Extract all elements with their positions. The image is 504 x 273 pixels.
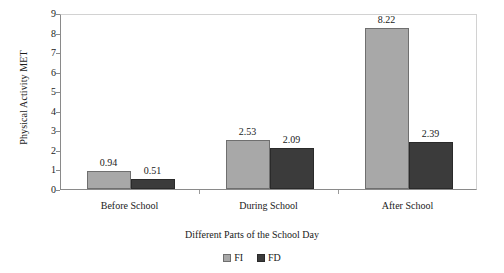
y-tick-label: 5	[0, 87, 56, 97]
category-label-1: During School	[199, 200, 338, 211]
bar-value-label: 0.51	[131, 166, 175, 176]
bar-value-label: 0.94	[87, 158, 131, 168]
bar-fi-1	[226, 140, 270, 189]
x-separator	[338, 190, 339, 194]
bar-fd-0	[131, 179, 175, 189]
bar-value-label: 8.22	[365, 15, 409, 25]
light-gray-swatch	[223, 254, 231, 262]
y-tick-label: 1	[0, 165, 56, 175]
y-tick-label: 3	[0, 126, 56, 136]
legend-label: FD	[268, 252, 281, 263]
legend-label: FI	[234, 252, 243, 263]
bar-chart-figure: Physical Activity MET 0123456789 0.940.5…	[0, 0, 504, 273]
y-tick-label: 6	[0, 68, 56, 78]
bars-container: 0.940.512.532.098.222.39	[61, 15, 476, 189]
plot-area: 0.940.512.532.098.222.39	[60, 14, 477, 190]
x-separator	[199, 190, 200, 194]
y-tick-mark	[56, 190, 60, 191]
category-label-0: Before School	[60, 200, 199, 211]
y-tick-label: 0	[0, 185, 56, 195]
x-axis-title: Different Parts of the School Day	[0, 229, 504, 240]
bar-fd-1	[270, 148, 314, 189]
y-tick-label: 8	[0, 29, 56, 39]
y-tick-label: 2	[0, 146, 56, 156]
bar-fi-0	[87, 171, 131, 189]
bar-value-label: 2.09	[270, 135, 314, 145]
category-label-2: After School	[338, 200, 477, 211]
chart-legend: FIFD	[0, 252, 504, 263]
dark-gray-swatch	[257, 254, 265, 262]
y-tick-label: 4	[0, 107, 56, 117]
bar-fi-2	[365, 28, 409, 189]
y-tick-label: 7	[0, 48, 56, 58]
y-tick-label: 9	[0, 9, 56, 19]
legend-item-fd: FD	[257, 252, 281, 263]
bar-fd-2	[409, 142, 453, 189]
legend-item-fi: FI	[223, 252, 243, 263]
bar-value-label: 2.39	[409, 129, 453, 139]
bar-value-label: 2.53	[226, 127, 270, 137]
